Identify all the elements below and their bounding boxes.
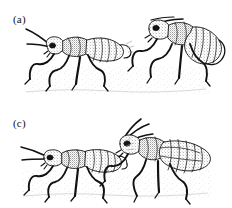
figure-panel-a: (a) [0, 0, 232, 104]
ground-shadow-a [24, 66, 210, 94]
panel-c-illustration [0, 104, 232, 208]
figure-panel-c: (c) [0, 104, 232, 208]
figure-root: (a) [0, 0, 232, 208]
panel-a-illustration [0, 0, 232, 104]
